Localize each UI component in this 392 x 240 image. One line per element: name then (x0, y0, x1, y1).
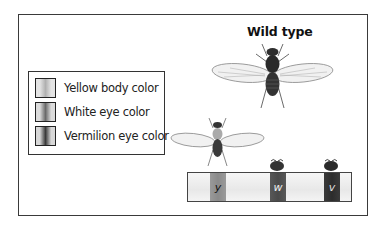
legend-item-white: White eye color (35, 102, 150, 122)
legend-label: Yellow body color (64, 81, 158, 95)
legend-item-yellow: Yellow body color (35, 78, 158, 98)
white-eye-head-icon (268, 157, 286, 171)
legend-item-vermilion: Vermilion eye color (35, 126, 169, 146)
yellow-band-swatch-icon (35, 78, 56, 98)
gene-band-yellow: y (210, 173, 226, 201)
white-band-swatch-icon (35, 102, 56, 122)
wild-type-fly-icon (210, 42, 335, 112)
yellow-body-fly-icon (170, 116, 265, 168)
legend-label: White eye color (64, 105, 150, 119)
chromosome: y w v (187, 172, 352, 202)
wild-type-title: Wild type (247, 24, 312, 39)
legend: Yellow body color White eye color Vermil… (28, 71, 165, 155)
vermilion-band-swatch-icon (35, 126, 56, 146)
legend-label: Vermilion eye color (64, 129, 169, 143)
vermilion-eye-head-icon (322, 157, 340, 171)
gene-band-vermilion: v (324, 173, 340, 201)
gene-band-white: w (270, 173, 286, 201)
